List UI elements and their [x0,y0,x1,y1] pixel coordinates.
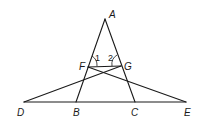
angle-2-label: 2 [108,53,113,63]
label-d: D [17,107,24,118]
geometry-diagram: A F G D B C E 1 2 [0,0,202,122]
label-g: G [124,61,132,72]
label-a: A [108,9,116,20]
segment-fg [88,66,121,67]
label-c: C [131,107,139,118]
segment-fe [88,67,186,102]
angle-1-label: 1 [95,53,100,63]
label-f: F [79,61,86,72]
label-e: E [184,107,191,118]
label-b: B [73,107,80,118]
segment-dg [24,66,121,102]
